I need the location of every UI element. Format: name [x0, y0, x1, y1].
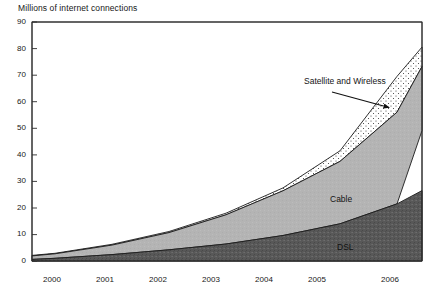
chart-figure: Millions of internet connections 90 80 7…: [0, 0, 435, 296]
y-axis-ticks: [32, 22, 37, 261]
series-label-cable: Cable: [330, 194, 352, 204]
chart-plot-area: [0, 0, 435, 296]
series-label-dsl: DSL: [337, 242, 354, 252]
satellite-annotation-label: Satellite and Wireless: [304, 76, 386, 86]
